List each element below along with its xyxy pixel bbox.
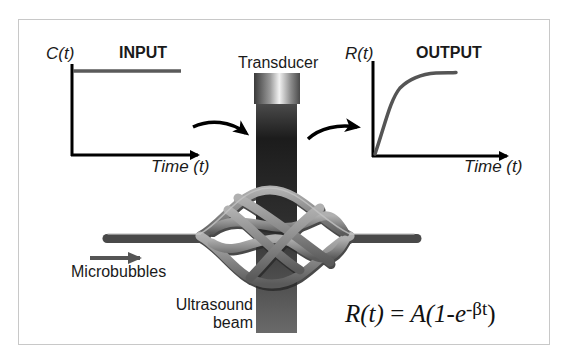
- ultrasound-label-line1: Ultrasound: [170, 296, 253, 314]
- ultrasound-beam-label: Ultrasound beam: [170, 296, 253, 332]
- output-chart-title: OUTPUT: [416, 44, 482, 62]
- equation-lhs: R(t): [345, 300, 384, 327]
- input-chart-title: INPUT: [119, 44, 167, 62]
- ultrasound-label-line2: beam: [170, 314, 253, 332]
- output-chart: [372, 61, 507, 157]
- input-chart: [71, 64, 198, 156]
- equation-exponent: -βt: [466, 298, 487, 319]
- equation-equals: =: [384, 300, 411, 327]
- transducer-head-icon: [254, 73, 300, 104]
- output-y-axis-label: R(t): [345, 44, 373, 64]
- equation-rhs-pre: A(1-e: [410, 300, 466, 327]
- equation-rhs-post: ): [487, 300, 495, 327]
- input-y-axis-label: C(t): [46, 44, 74, 64]
- response-equation: R(t) = A(1-e-βt): [345, 300, 496, 328]
- transducer-to-output-arrow: [308, 126, 357, 139]
- transducer-label: Transducer: [238, 54, 318, 72]
- microbubbles-label: Microbubbles: [71, 263, 166, 281]
- diagram-root: C(t) INPUT Time (t) Transducer R(t) OUTP…: [0, 0, 561, 359]
- output-x-axis-label: Time (t): [464, 157, 522, 177]
- input-to-transducer-arrow: [193, 122, 246, 133]
- output-response-curve: [375, 73, 456, 155]
- input-x-axis-label: Time (t): [151, 157, 209, 177]
